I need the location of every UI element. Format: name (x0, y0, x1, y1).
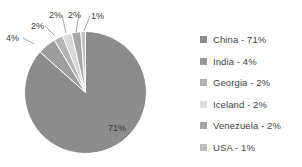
legend-swatch-icon (200, 144, 207, 151)
pie-chart-figure: 4%2%2%2%1% 71% China - 71% India - 4% Ge… (0, 0, 302, 167)
pie-callout-label: 1% (91, 11, 104, 21)
legend-item[interactable]: China - 71% (200, 29, 300, 51)
pie-leader-line (45, 26, 55, 36)
pie-chart-canvas: 4%2%2%2%1% 71% (0, 0, 190, 167)
legend-item[interactable]: USA - 1% (200, 137, 300, 159)
legend-swatch-icon (200, 79, 207, 86)
pie-leader-line (84, 16, 90, 31)
legend-item-label: Georgia - 2% (213, 78, 270, 88)
chart-legend: China - 71% India - 4% Georgia - 2% Icel… (200, 29, 300, 158)
legend-item-label: Iceland - 2% (213, 100, 267, 110)
pie-callout-label: 2% (49, 10, 62, 20)
legend-item-label: India - 4% (213, 57, 257, 67)
legend-swatch-icon (200, 36, 207, 43)
legend-item-label: China - 71% (213, 35, 266, 45)
legend-item[interactable]: Venezuela - 2% (200, 115, 300, 137)
pie-slices-group (24, 32, 146, 154)
pie-callout-label: 4% (6, 33, 19, 43)
legend-item[interactable]: Georgia - 2% (200, 72, 300, 94)
legend-swatch-icon (200, 101, 207, 108)
pie-callout-label: 2% (68, 10, 81, 20)
legend-swatch-icon (200, 58, 207, 65)
pie-leader-line (23, 38, 34, 44)
legend-item-label: Venezuela - 2% (213, 121, 281, 131)
legend-swatch-icon (200, 122, 207, 129)
legend-item[interactable]: India - 4% (200, 51, 300, 73)
legend-item[interactable]: Iceland - 2% (200, 94, 300, 116)
pie-leader-line (62, 15, 66, 33)
pie-inside-label: 71% (108, 123, 126, 133)
pie-callout-label: 2% (31, 21, 44, 31)
legend-item-label: USA - 1% (213, 143, 255, 153)
